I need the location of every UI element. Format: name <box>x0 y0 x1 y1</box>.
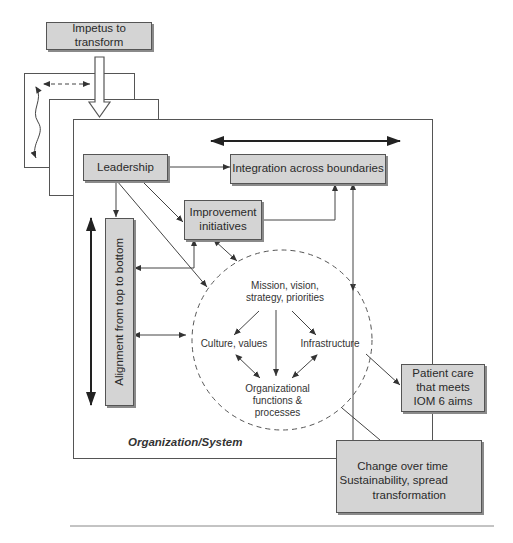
functions-line1: Organizational <box>235 383 320 395</box>
patient-care-line2: that meets <box>416 381 470 395</box>
leadership-box: Leadership <box>83 154 168 181</box>
functions-line2: functions & <box>235 395 320 407</box>
change-line1: Change over time <box>338 459 448 473</box>
organization-system-label: Organization/System <box>128 436 242 448</box>
impetus-label: Impetus to transform <box>47 22 151 50</box>
mission-line1: Mission, vision, <box>230 280 340 292</box>
change-text: Change over time Sustainability, spread … <box>338 459 448 502</box>
change-line3: transformation <box>338 488 448 502</box>
patient-care-line1: Patient care <box>412 367 473 381</box>
change-line2: Sustainability, spread <box>338 473 448 487</box>
patient-care-line3: IOM 6 aims <box>414 395 473 409</box>
culture-label: Culture, values <box>194 338 274 350</box>
mission-label: Mission, vision, strategy, priorities <box>230 280 340 304</box>
integration-box: Integration across boundaries <box>230 154 386 184</box>
improvement-label-line1: Improvement <box>189 206 256 220</box>
impetus-box: Impetus to transform <box>46 22 152 50</box>
alignment-label: Alignment from top to bottom <box>113 238 127 386</box>
improvement-label-line2: initiatives <box>199 220 246 234</box>
functions-label: Organizational functions & processes <box>235 383 320 419</box>
alignment-box: Alignment from top to bottom <box>105 218 134 406</box>
mission-line2: strategy, priorities <box>230 292 340 304</box>
improvement-box: Improvement initiatives <box>184 200 262 240</box>
integration-label: Integration across boundaries <box>232 162 384 176</box>
patient-care-box: Patient care that meets IOM 6 aims <box>401 364 485 412</box>
infrastructure-label: Infrastructure <box>295 338 365 350</box>
functions-line3: processes <box>235 407 320 419</box>
leadership-label: Leadership <box>97 161 154 175</box>
